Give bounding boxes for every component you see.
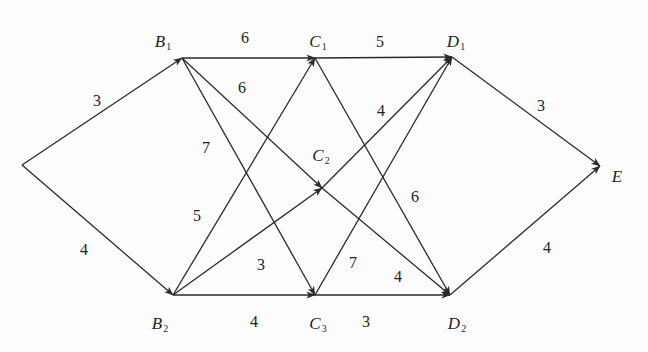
edge-b1-c2 — [182, 58, 322, 188]
edge-b1-c3 — [182, 58, 315, 295]
node-name: B — [155, 32, 165, 51]
node-label-c2: C2 — [312, 147, 329, 166]
node-name: C — [312, 146, 323, 165]
node-subscript: 2 — [163, 323, 168, 334]
node-subscript: 2 — [325, 155, 330, 166]
edge-weight-label: 3 — [537, 98, 545, 114]
node-label-c3: C3 — [309, 315, 326, 334]
node-label-d1: D1 — [447, 33, 465, 52]
edge-weight-label: 3 — [257, 257, 265, 273]
node-subscript: 1 — [322, 41, 327, 52]
edge-weight-label: 5 — [376, 34, 384, 50]
edge-d2-e — [450, 166, 600, 295]
edge-weight-label: 3 — [362, 314, 370, 330]
edge-weight-label: 4 — [543, 240, 551, 256]
edge-c2-d2 — [322, 188, 450, 295]
edge-group — [22, 57, 600, 295]
node-name: B — [152, 314, 162, 333]
edges-layer — [0, 0, 648, 352]
edge-weight-label: 5 — [193, 208, 201, 224]
node-name: E — [612, 167, 622, 186]
edge-c2-d1 — [322, 57, 452, 188]
edge-weight-label: 6 — [241, 30, 249, 46]
node-subscript: 3 — [322, 323, 327, 334]
graph-diagram: 3466753456447334B1B2C1C2C3D1D2E — [0, 0, 648, 352]
edge-weight-label: 7 — [202, 140, 210, 156]
edge-weight-label: 6 — [411, 189, 419, 205]
edge-a-b2 — [22, 165, 173, 295]
node-subscript: 1 — [460, 41, 465, 52]
edge-weight-label: 6 — [238, 80, 246, 96]
edge-weight-label: 4 — [250, 314, 258, 330]
node-label-c1: C1 — [309, 33, 326, 52]
node-subscript: 2 — [461, 323, 466, 334]
edge-weight-label: 4 — [80, 242, 88, 258]
node-label-d2: D2 — [448, 315, 466, 334]
edge-c1-d1 — [315, 57, 452, 58]
edge-c3-d1 — [315, 57, 452, 295]
node-label-b2: B2 — [152, 315, 168, 334]
node-name: D — [447, 32, 459, 51]
node-name: C — [309, 314, 320, 333]
node-subscript: 1 — [166, 41, 171, 52]
node-name: C — [309, 32, 320, 51]
node-label-e: E — [612, 168, 622, 185]
edge-weight-label: 3 — [93, 93, 101, 109]
edge-weight-label: 7 — [349, 255, 357, 271]
edge-weight-label: 4 — [377, 103, 385, 119]
edge-b2-c2 — [173, 188, 322, 295]
edge-a-b1 — [22, 58, 182, 165]
node-name: D — [448, 314, 460, 333]
edge-d1-e — [452, 57, 600, 166]
node-label-b1: B1 — [155, 33, 171, 52]
edge-weight-label: 4 — [394, 269, 402, 285]
